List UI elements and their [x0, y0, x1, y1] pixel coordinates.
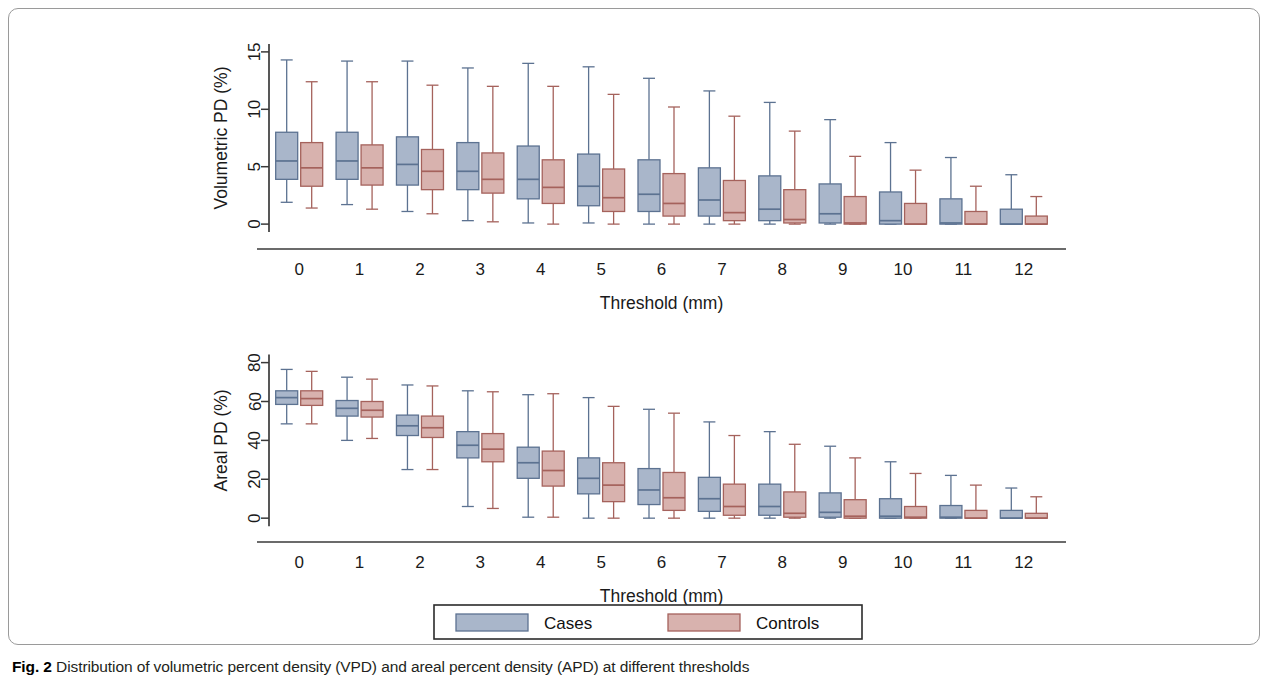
- x-tick-label-areal-pd-8: 8: [778, 553, 787, 572]
- box-areal-pd-controls-5: [603, 406, 625, 518]
- y-tick-label-areal-pd-1: 20: [246, 470, 265, 489]
- x-axis-title-volumetric-pd: Threshold (mm): [600, 293, 724, 313]
- box-volumetric-pd-controls-9: [844, 156, 866, 224]
- chart-panel-volumetric-pd: 051015Volumetric PD (%)0123456789101112T…: [211, 42, 1066, 313]
- box-volumetric-pd-controls-1: [361, 82, 383, 209]
- figure-caption-text: Distribution of volumetric percent densi…: [56, 658, 749, 675]
- box-volumetric-pd-cases-0: [276, 60, 298, 202]
- x-tick-label-volumetric-pd-2: 2: [415, 260, 424, 279]
- x-tick-label-volumetric-pd-11: 11: [955, 260, 973, 279]
- box-volumetric-pd-cases-9: [819, 120, 841, 224]
- box-volumetric-pd-cases-5: [578, 67, 600, 223]
- box-volumetric-pd-controls-8: [784, 131, 806, 224]
- y-tick-label-areal-pd-4: 80: [246, 353, 265, 372]
- box-rect: [421, 149, 443, 189]
- box-rect: [361, 145, 383, 185]
- box-volumetric-pd-cases-8: [759, 102, 781, 224]
- x-tick-label-areal-pd-1: 1: [355, 553, 364, 572]
- y-tick-label-areal-pd-2: 40: [246, 431, 265, 450]
- box-volumetric-pd-cases-2: [396, 61, 418, 211]
- series-volumetric-pd-cases: [276, 60, 1023, 224]
- box-rect: [517, 146, 539, 199]
- x-tick-label-areal-pd-9: 9: [838, 553, 847, 572]
- box-volumetric-pd-controls-10: [905, 170, 927, 224]
- box-areal-pd-cases-4: [517, 395, 539, 518]
- box-rect: [542, 160, 564, 204]
- box-volumetric-pd-cases-4: [517, 63, 539, 223]
- box-volumetric-pd-cases-11: [940, 158, 962, 225]
- y-tick-label-volumetric-pd-1: 5: [246, 162, 265, 171]
- box-areal-pd-controls-6: [663, 413, 685, 518]
- box-rect: [784, 190, 806, 223]
- legend-swatch-controls: [668, 614, 740, 631]
- box-areal-pd-controls-1: [361, 379, 383, 438]
- x-tick-label-volumetric-pd-10: 10: [894, 260, 913, 279]
- y-axis-title-volumetric-pd: Volumetric PD (%): [211, 67, 231, 210]
- y-tick-label-volumetric-pd-3: 15: [246, 42, 265, 61]
- box-volumetric-pd-cases-6: [638, 78, 660, 224]
- box-volumetric-pd-controls-4: [542, 86, 564, 224]
- box-volumetric-pd-controls-6: [663, 107, 685, 224]
- box-rect: [1000, 209, 1022, 224]
- box-volumetric-pd-controls-3: [482, 86, 504, 221]
- x-tick-label-areal-pd-7: 7: [717, 553, 726, 572]
- box-areal-pd-controls-2: [421, 386, 443, 470]
- box-areal-pd-cases-9: [819, 446, 841, 518]
- box-rect: [1000, 510, 1022, 518]
- x-axis-title-areal-pd: Threshold (mm): [600, 586, 724, 606]
- box-rect: [603, 463, 625, 502]
- box-rect: [663, 174, 685, 216]
- boxplot-charts: 051015Volumetric PD (%)0123456789101112T…: [9, 9, 1261, 646]
- box-rect: [819, 493, 841, 517]
- box-rect: [421, 416, 443, 437]
- box-volumetric-pd-controls-7: [723, 116, 745, 224]
- box-volumetric-pd-cases-3: [457, 68, 479, 221]
- y-axis-title-areal-pd: Areal PD (%): [211, 389, 231, 491]
- figure-page: 051015Volumetric PD (%)0123456789101112T…: [0, 0, 1274, 693]
- box-areal-pd-cases-12: [1000, 488, 1022, 518]
- x-tick-label-volumetric-pd-12: 12: [1014, 260, 1033, 279]
- figure-number: Fig. 2: [12, 658, 52, 675]
- box-rect: [965, 211, 987, 224]
- chart-panel-areal-pd: 020406080Areal PD (%)0123456789101112Thr…: [211, 353, 1066, 606]
- legend-label-controls: Controls: [756, 614, 819, 633]
- box-rect: [396, 137, 418, 185]
- box-rect: [940, 506, 962, 519]
- box-rect: [276, 132, 298, 179]
- box-rect: [759, 176, 781, 221]
- box-areal-pd-cases-6: [638, 409, 660, 518]
- chart-legend: CasesControls: [434, 605, 862, 639]
- y-tick-label-volumetric-pd-2: 10: [246, 100, 265, 119]
- box-rect: [723, 180, 745, 220]
- box-areal-pd-controls-11: [965, 485, 987, 518]
- x-tick-label-volumetric-pd-8: 8: [778, 260, 787, 279]
- series-areal-pd-controls: [301, 371, 1048, 518]
- box-areal-pd-controls-4: [542, 394, 564, 517]
- box-rect: [844, 197, 866, 225]
- x-tick-label-areal-pd-2: 2: [415, 553, 424, 572]
- box-volumetric-pd-cases-1: [336, 61, 358, 205]
- y-tick-label-areal-pd-3: 60: [246, 392, 265, 411]
- box-areal-pd-cases-5: [578, 398, 600, 519]
- box-areal-pd-cases-0: [276, 369, 298, 423]
- box-rect: [578, 154, 600, 206]
- box-rect: [603, 169, 625, 211]
- box-areal-pd-cases-10: [880, 462, 902, 518]
- box-rect: [638, 160, 660, 212]
- box-volumetric-pd-cases-10: [880, 143, 902, 225]
- x-tick-label-areal-pd-5: 5: [596, 553, 605, 572]
- box-areal-pd-controls-10: [905, 473, 927, 518]
- box-rect: [301, 143, 323, 187]
- x-tick-label-volumetric-pd-0: 0: [294, 260, 303, 279]
- box-rect: [698, 168, 720, 216]
- box-rect: [578, 458, 600, 494]
- box-areal-pd-cases-1: [336, 377, 358, 440]
- x-tick-label-volumetric-pd-5: 5: [596, 260, 605, 279]
- box-rect: [457, 143, 479, 190]
- y-tick-label-volumetric-pd-0: 0: [246, 219, 265, 228]
- box-areal-pd-cases-7: [698, 422, 720, 518]
- legend-label-cases: Cases: [544, 614, 592, 633]
- box-areal-pd-controls-8: [784, 444, 806, 518]
- box-volumetric-pd-controls-12: [1025, 197, 1047, 225]
- box-areal-pd-cases-2: [396, 385, 418, 470]
